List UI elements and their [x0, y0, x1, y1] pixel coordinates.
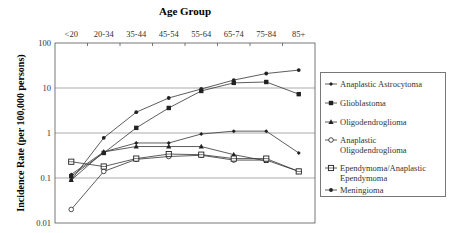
legend-label: Meningioma	[340, 185, 383, 195]
y-tick-label: 10	[43, 83, 52, 93]
y-tick-labels: 1001010.10.01	[36, 38, 51, 228]
x-tick-labels: <2020-3435-4445-5455-6465-7475-8485+	[65, 29, 306, 46]
series-anaplastic-oligodendroglioma	[69, 153, 301, 212]
legend-item: Ependymoma/AnaplasticEpendymoma	[325, 163, 426, 183]
legend-marker-icon	[325, 80, 337, 88]
legend-label: Anaplastic Astrocytoma	[340, 79, 422, 89]
legend-marker-icon	[325, 136, 337, 144]
legend-item: Oligodendroglioma	[325, 117, 407, 127]
legend-label: AnaplasticOligodendroglioma	[340, 135, 407, 155]
y-tick-label: 100	[38, 38, 51, 48]
legend-item: Anaplastic Astrocytoma	[325, 79, 422, 89]
legend-label: Glioblastoma	[340, 98, 386, 108]
legend-marker-icon	[325, 164, 337, 172]
legend: Anaplastic AstrocytomaGlioblastomaOligod…	[320, 72, 446, 197]
x-tick-label: 55-64	[191, 29, 212, 39]
x-tick-label: 35-44	[126, 29, 147, 39]
legend-item: Glioblastoma	[325, 98, 386, 108]
y-tick-label: 1	[47, 128, 51, 138]
legend-item: AnaplasticOligodendroglioma	[325, 135, 407, 155]
x-tick-label: <20	[65, 29, 78, 39]
legend-item: Meningioma	[325, 185, 383, 195]
x-tick-label: 45-54	[159, 29, 180, 39]
legend-marker-icon	[325, 118, 337, 126]
x-axis-title: Age Group	[159, 5, 211, 17]
y-tick-label: 0.1	[40, 173, 51, 183]
legend-marker-icon	[325, 99, 337, 107]
x-tick-label: 85+	[292, 29, 306, 39]
x-tick-label: 20-34	[94, 29, 115, 39]
x-tick-label: 65-74	[224, 29, 245, 39]
legend-label: Ependymoma/AnaplasticEpendymoma	[340, 163, 426, 183]
legend-marker-icon	[325, 186, 337, 194]
series-lines	[69, 68, 302, 212]
gridlines	[55, 88, 315, 178]
series-oligodendroglioma	[69, 144, 269, 182]
y-tick-label: 0.01	[36, 218, 51, 228]
x-tick-label: 75-84	[256, 29, 277, 39]
legend-label: Oligodendroglioma	[340, 117, 407, 127]
y-axis-title: Incidence Rate (per 100,000 persons)	[15, 54, 27, 211]
